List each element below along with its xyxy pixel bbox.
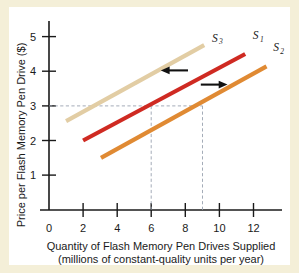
- y-axis-label: Price per Flash Memory Pen Drive ($): [15, 43, 27, 228]
- x-tick-label-0: 0: [46, 222, 52, 234]
- x-tick-label-2: 2: [80, 222, 86, 234]
- x-axis-label-line2: (millions of constant-quality units per …: [58, 253, 264, 265]
- x-tick-label-4: 4: [114, 222, 120, 234]
- x-axis-label-line1: Quantity of Flash Memory Pen Drives Supp…: [47, 240, 276, 252]
- y-tick-label-3: 3: [30, 100, 36, 112]
- x-tick-label-12: 12: [247, 222, 259, 234]
- supply-curve-s2-line: [101, 66, 267, 157]
- supply-curve-s2-subscript: 2: [280, 47, 284, 56]
- x-tick-label-10: 10: [213, 222, 225, 234]
- chart-plot-area: Price per Flash Memory Pen Drive ($) 5 4…: [9, 7, 290, 265]
- supply-curve-s3-subscript: 3: [218, 37, 223, 46]
- x-tick-label-6: 6: [148, 222, 154, 234]
- x-tick-label-8: 8: [182, 222, 188, 234]
- supply-curve-s3-label: S: [212, 32, 218, 44]
- x-axis-tick-labels: 0 2 4 6 8 10 12: [46, 222, 260, 234]
- supply-curves: [66, 45, 266, 158]
- y-tick-label-1: 1: [30, 169, 36, 181]
- supply-curve-s1-label: S: [253, 29, 259, 41]
- y-tick-label-2: 2: [30, 135, 36, 147]
- supply-curve-s1-subscript: 1: [260, 35, 264, 44]
- supply-curve-s2-label: S: [273, 41, 279, 53]
- reference-lines: [49, 106, 203, 210]
- supply-curve-chart: Price per Flash Memory Pen Drive ($) 5 4…: [9, 7, 290, 265]
- y-tick-label-4: 4: [30, 65, 36, 77]
- chart-card: Price per Flash Memory Pen Drive ($) 5 4…: [9, 7, 290, 265]
- curve-labels: S 3 S 1 S 2: [212, 29, 284, 56]
- y-tick-label-5: 5: [30, 31, 36, 43]
- rightward-shift-arrow: [201, 81, 228, 89]
- y-axis-tick-labels: 5 4 3 2 1: [30, 31, 36, 182]
- supply-curve-s3-line: [66, 45, 204, 121]
